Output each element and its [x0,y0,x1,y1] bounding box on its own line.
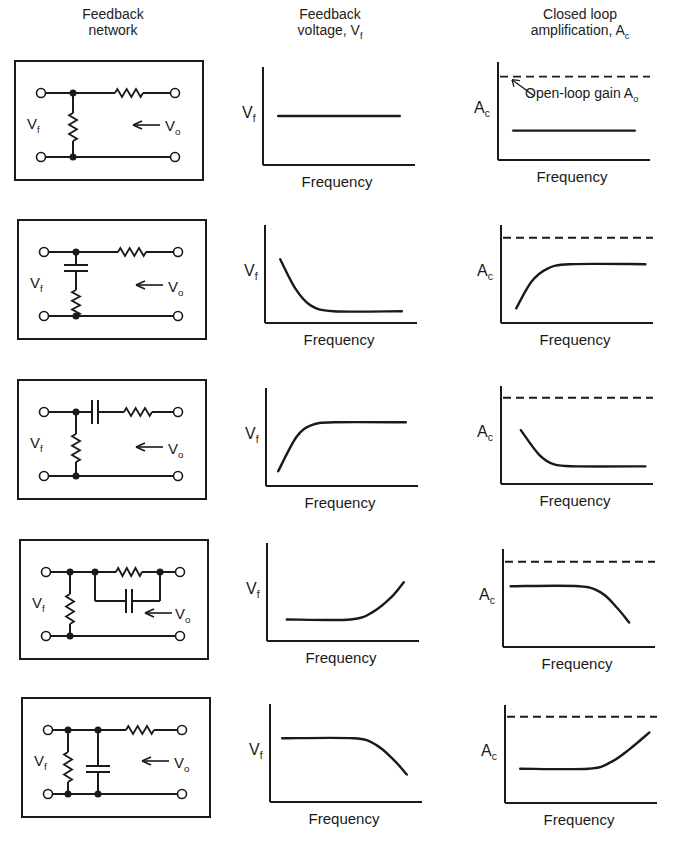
capacitor-icon [126,589,132,613]
data-curve [520,732,649,769]
resistor-icon [118,248,146,256]
terminal-icon [37,153,46,162]
terminal-icon [171,89,180,98]
y-axis-label-sub: c [492,751,497,762]
y-axis-label: Vf [242,104,256,124]
row-4: VfVoFrequencyVfFrequencyAc [20,540,655,672]
terminal-icon [174,312,183,321]
y-axis-label-main: V [242,104,253,121]
y-axis-label-sub: f [260,750,263,761]
vf-label-main: V [34,752,44,769]
x-axis-label: Frequency [309,810,380,827]
feedback-network-3: VfVo [18,380,206,499]
terminal-icon [174,472,183,481]
vf-label-sub: f [40,283,43,294]
y-axis-label-main: A [479,586,490,603]
ac-chart-2: FrequencyAc [477,225,653,348]
resistor-icon [69,113,77,141]
vf-chart-3: FrequencyVf [245,388,418,511]
resistor-icon [116,568,142,576]
y-axis-label: Ac [479,586,495,606]
vo-label-main: V [168,440,178,457]
terminal-icon [40,312,49,321]
open-loop-annotation-main: Open-loop gain A [525,85,634,101]
data-curve [516,264,645,308]
terminal-icon [44,790,53,799]
y-axis-label-sub: c [488,271,493,282]
x-axis-label: Frequency [304,331,375,348]
vf-label: Vf [30,434,43,454]
vo-label: Vo [168,278,184,298]
y-axis-label-main: A [481,742,492,759]
terminal-icon [40,472,49,481]
terminal-icon [178,790,187,799]
resistor-icon [72,434,80,462]
y-axis-label-sub: f [253,113,256,124]
vf-label: Vf [27,115,40,135]
x-axis-label: Frequency [544,811,615,828]
vo-label-sub: o [184,763,190,774]
ac-chart-4: FrequencyAc [479,549,655,672]
y-axis-label-sub: f [257,589,260,600]
open-loop-annotation-sub: o [633,94,638,104]
y-axis-label-main: A [477,262,488,279]
terminal-icon [40,408,49,417]
data-curve [282,738,407,775]
y-axis-label-sub: f [255,271,258,282]
feedback-network-2: VfVo [18,220,206,339]
x-axis-label: Frequency [542,655,613,672]
y-axis-label-sub: c [485,108,490,119]
y-axis-label: Vf [246,580,260,600]
feedback-network-5: VfVo [22,698,210,817]
vo-label-main: V [175,605,185,622]
row-1: VfVoFrequencyVfFrequencyAcOpen-loop gain… [15,61,650,190]
vf-label-sub: f [44,761,47,772]
vf-label-sub: f [40,443,43,454]
vo-label-sub: o [178,287,184,298]
vo-label-main: V [174,754,184,771]
vf-label: Vf [34,752,47,772]
vo-label: Vo [175,605,191,625]
y-axis-label: Vf [249,741,263,761]
vf-chart-2: FrequencyVf [244,225,417,348]
open-loop-annotation: Open-loop gain Ao [525,85,638,104]
y-axis-label: Vf [245,425,259,445]
vf-label-main: V [30,274,40,291]
data-curve [511,586,630,623]
y-axis-label: Vf [244,262,258,282]
y-axis-label: Ac [477,423,493,443]
y-axis-label: Ac [481,742,497,762]
feedback-network-1: VfVo [15,61,203,180]
row-5: VfVoFrequencyVfFrequencyAc [22,698,657,828]
y-axis-label-main: A [477,423,488,440]
resistor-icon [66,594,74,624]
vf-label-main: V [30,434,40,451]
data-curve [278,422,406,471]
resistor-icon [64,752,72,782]
terminal-icon [40,248,49,257]
terminal-icon [174,248,183,257]
vf-chart-1: FrequencyVf [242,67,415,190]
vo-label-main: V [168,278,178,295]
capacitor-icon [92,400,98,424]
vf-label: Vf [30,274,43,294]
vf-label-sub: f [42,603,45,614]
terminal-icon [42,632,51,641]
vo-label-sub: o [175,126,181,137]
row-2: VfVoFrequencyVfFrequencyAc [18,220,653,348]
capacitor-icon [86,766,110,772]
x-axis-label: Frequency [537,168,608,185]
vo-label: Vo [165,117,181,137]
vo-label-sub: o [178,449,184,460]
feedback-network-4: VfVo [20,540,208,659]
arrow-left-icon [145,609,172,617]
arrow-left-icon [136,281,163,289]
data-curve [521,430,646,466]
y-axis-label-sub: c [490,595,495,606]
arrow-left-icon [136,443,163,451]
x-axis-label: Frequency [540,492,611,509]
arrow-left-icon [142,757,169,765]
x-axis-label: Frequency [305,494,376,511]
vo-label: Vo [174,754,190,774]
y-axis-label-main: V [245,425,256,442]
